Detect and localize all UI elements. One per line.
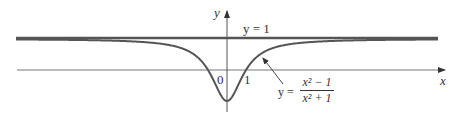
x-tick-1-label: 1 <box>244 73 251 86</box>
equation-fraction: x² − 1 x² + 1 <box>300 76 334 105</box>
equation-numerator: x² − 1 <box>300 76 334 89</box>
asymptote-label: y = 1 <box>243 22 270 35</box>
graph-canvas <box>0 0 460 115</box>
origin-label: 0 <box>217 73 224 86</box>
label-pointer-arrow <box>263 58 283 84</box>
y-axis-label: y <box>214 6 220 19</box>
x-axis-label: x <box>440 74 446 87</box>
equation-denominator: x² + 1 <box>300 92 334 105</box>
equation-lhs: y = <box>278 86 294 98</box>
